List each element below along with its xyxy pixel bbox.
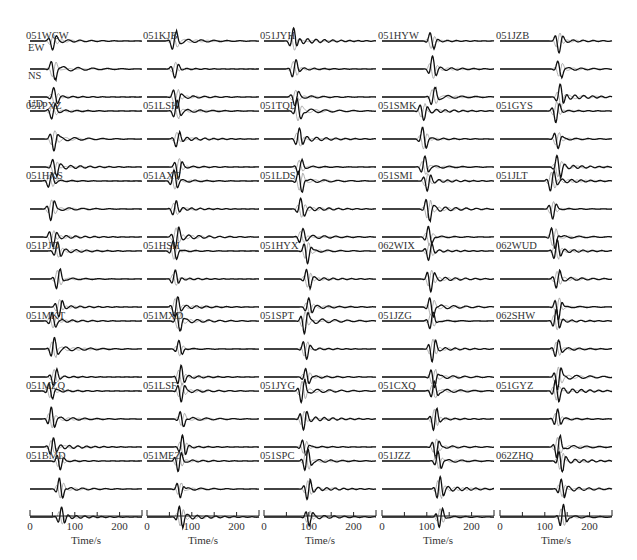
x-tick-label: 100 <box>419 520 436 532</box>
observed-trace-ns <box>147 64 259 78</box>
station-label: 051JZB <box>496 30 529 41</box>
observed-trace-ns <box>500 409 612 424</box>
x-axis-label: Time/s <box>71 534 101 546</box>
x-tick-label: 0 <box>379 520 385 532</box>
station-panel-051jzg: 051JZG <box>378 310 494 387</box>
component-label-ud: UD <box>28 98 44 109</box>
station-label: 051SPT <box>260 310 294 321</box>
station-panel-062wix: 062WIX <box>378 240 494 317</box>
station-label: 051PJD <box>26 240 60 251</box>
x-tick-label: 100 <box>537 520 554 532</box>
synthetic-trace-ns <box>500 202 612 214</box>
x-tick-label: 0 <box>497 520 503 532</box>
x-axis: 0100200Time/s <box>27 510 142 546</box>
station-label: 051MEZ <box>143 450 181 461</box>
station-label: 051HSH <box>143 240 180 251</box>
station-panel-051spc: 051SPC <box>260 449 376 526</box>
station-label: 062SHW <box>496 310 535 321</box>
station-panel-051jyg: 051JYG <box>260 379 376 455</box>
station-label: 062ZHQ <box>496 450 534 461</box>
station-panel-051jyh: 051JYH <box>260 28 376 106</box>
station-panel-051lsh: 051LSH <box>143 100 259 179</box>
observed-trace-ns <box>30 269 142 289</box>
station-label: 051HYX <box>260 240 299 251</box>
observed-trace-ns <box>147 201 259 215</box>
observed-trace-ns <box>382 272 494 291</box>
station-label: 051JYG <box>260 380 295 391</box>
x-tick-label: 200 <box>463 520 480 532</box>
station-panel-062shw: 062SHW <box>496 309 612 389</box>
synthetic-trace-ns <box>147 62 259 72</box>
synthetic-trace-ns <box>147 132 259 142</box>
station-panel-051hyx: 051HYX <box>260 240 376 314</box>
station-label: 051JZG <box>378 310 412 321</box>
x-axis-label: Time/s <box>423 534 453 546</box>
observed-trace-ns <box>147 341 259 355</box>
x-tick-label: 0 <box>261 520 267 532</box>
station-label: 051LDS <box>260 170 296 181</box>
station-label: 051SMI <box>378 170 413 181</box>
observed-trace-ns <box>500 204 612 219</box>
seismogram-figure: 051WCW051KJB051JYH051HYW051JZB051PXZ051L… <box>0 0 637 560</box>
observed-trace-ns <box>147 484 259 498</box>
x-axis: 0100200Time/s <box>497 510 612 546</box>
station-label: 051AXT <box>143 170 181 181</box>
station-panel-051hxs: 051HXS <box>26 170 142 247</box>
station-label: 051JYH <box>260 30 295 41</box>
station-panel-051cxq: 051CXQ <box>378 380 494 458</box>
synthetic-trace-ns <box>264 205 376 218</box>
x-axis: 0100200Time/s <box>261 510 376 546</box>
observed-trace-ns <box>147 270 259 283</box>
station-label: 051SPC <box>260 450 294 461</box>
x-axis-label: Time/s <box>188 534 218 546</box>
station-panel-051gys: 051GYS <box>496 100 612 178</box>
station-label: 051JZZ <box>378 450 411 461</box>
station-panel-051hyw: 051HYW <box>378 30 494 104</box>
observed-trace-ns <box>264 342 376 359</box>
station-label: 051MXD <box>143 310 184 321</box>
station-label: 051BMD <box>26 450 66 461</box>
x-tick-label: 100 <box>184 520 201 532</box>
station-panel-062wud: 062WUD <box>496 240 612 320</box>
synthetic-trace-ns <box>30 131 142 145</box>
x-tick-label: 100 <box>301 520 318 532</box>
station-panel-051kjb: 051KJB <box>143 30 259 108</box>
observed-trace-ns <box>382 477 494 498</box>
station-label: 051WCW <box>26 30 69 41</box>
synthetic-trace-ns <box>147 346 259 356</box>
x-tick-label: 100 <box>67 520 84 532</box>
station-panel-051hsh: 051HSH <box>143 240 259 316</box>
station-panel-051jzb: 051JZB <box>496 30 612 107</box>
observed-trace-ns <box>382 408 494 430</box>
station-label: 051HYW <box>378 30 419 41</box>
observed-trace-ns <box>500 133 612 148</box>
station-panel-051lds: 051LDS <box>260 170 376 243</box>
station-panel-051mkt: 051MKT <box>26 310 142 386</box>
station-label: 051JLT <box>496 170 528 181</box>
observed-trace-ns <box>264 198 376 216</box>
station-label: 051GYZ <box>496 380 533 391</box>
station-panel-051jlt: 051JLT <box>496 170 612 249</box>
observed-trace-ns <box>382 200 494 221</box>
observed-trace-ns <box>147 132 259 147</box>
station-label: 051MZQ <box>26 380 66 391</box>
station-panel-051spt: 051SPT <box>260 310 376 384</box>
station-panel-051axt: 051AXT <box>143 170 259 248</box>
station-panel-051gyz: 051GYZ <box>496 380 612 458</box>
x-axis-label: Time/s <box>541 534 571 546</box>
station-label: 051MKT <box>26 310 66 321</box>
station-panel-051mzq: 051MZQ <box>26 380 142 454</box>
component-label-ew: EW <box>28 42 44 53</box>
observed-trace-ns <box>30 338 142 356</box>
synthetic-trace-ns <box>30 270 142 285</box>
observed-trace-ns <box>264 128 376 144</box>
station-panel-051smk: 051SMK <box>378 100 494 174</box>
observed-trace-ns <box>264 270 376 289</box>
observed-trace-ns <box>264 412 376 430</box>
x-tick-label: 0 <box>144 520 150 532</box>
x-axis: 0100200Time/s <box>144 510 259 546</box>
x-tick-label: 200 <box>581 520 598 532</box>
observed-trace-ns <box>30 62 142 80</box>
station-label: 051LSH <box>143 100 179 111</box>
station-panel-051lsf: 051LSF <box>143 380 259 456</box>
